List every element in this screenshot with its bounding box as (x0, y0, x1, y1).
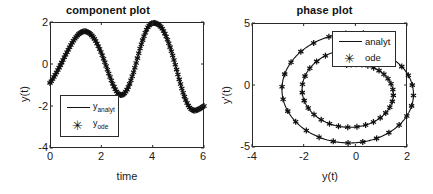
legend-label-analyt: analyt (365, 36, 390, 47)
xtick-0: 0 (341, 150, 371, 162)
legend-marker-sample: ✳ (337, 50, 363, 66)
xtick-2: 2 (392, 150, 422, 162)
xtick-6: 6 (188, 150, 218, 162)
component-plot-xlabel: time (67, 170, 187, 182)
legend-line-sample (337, 34, 363, 50)
phase-plot-panel: phase plot 5 0 -5 -4 -2 0 2 y(t) y'(t) a… (216, 0, 433, 194)
legend-entry-analyt[interactable]: analyt (333, 34, 395, 50)
ytick-2: 2 (22, 16, 48, 28)
ytick-0: 0 (22, 58, 48, 70)
phase-plot-canvas (216, 0, 433, 194)
legend-line-sample (65, 100, 91, 116)
phase-plot-ylabel: y'(t) (220, 86, 232, 104)
ytick-5: 5 (224, 17, 250, 29)
asterisk-icon: ✳ (344, 52, 355, 65)
xtick-2: 2 (86, 150, 116, 162)
xtick-0: 0 (35, 150, 65, 162)
legend-label-y-analyt: yanalyt (93, 101, 115, 113)
legend-entry-y-ode[interactable]: ✳ yode (61, 117, 118, 133)
xtick-4: 4 (137, 150, 167, 162)
phase-plot-xlabel: y(t) (270, 170, 390, 182)
legend-entry-y-analyt[interactable]: yanalyt (61, 100, 118, 116)
component-plot-ylabel: y(t) (18, 86, 30, 102)
phase-plot-legend[interactable]: analyt ✳ ode (332, 31, 396, 67)
matlab-figure-window: component plot 2 0 -2 -4 0 2 4 6 time y(… (0, 0, 433, 194)
component-plot-legend[interactable]: yanalyt ✳ yode (60, 95, 119, 137)
component-plot-panel: component plot 2 0 -2 -4 0 2 4 6 time y(… (0, 0, 216, 194)
xtick-neg4: -4 (237, 150, 267, 162)
legend-entry-ode[interactable]: ✳ ode (333, 50, 395, 66)
xtick-neg2: -2 (289, 150, 319, 162)
asterisk-icon: ✳ (72, 119, 83, 132)
legend-label-ode: ode (365, 52, 381, 63)
legend-marker-sample: ✳ (65, 117, 91, 133)
legend-label-y-ode: yode (93, 118, 108, 130)
